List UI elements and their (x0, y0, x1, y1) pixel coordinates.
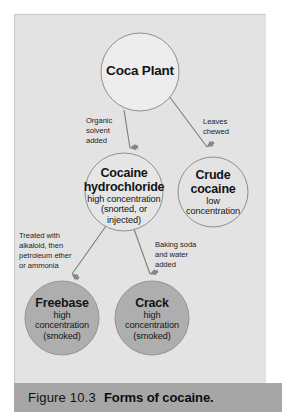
node-crack (115, 281, 189, 355)
figure-caption: Figure 10.3 Forms of cocaine. (14, 383, 282, 412)
node-coca-plant (101, 33, 179, 111)
caption-title: Forms of cocaine. (104, 390, 214, 405)
figure-container: Coca Plant Cocaine hydrochloride high co… (0, 0, 282, 418)
connector-plant-to-crude (169, 96, 207, 147)
connector-hydrochloride-to-crack (134, 229, 150, 274)
connector-plant-to-hydrochloride (124, 110, 130, 148)
caption-number: Figure 10.3 (28, 390, 96, 405)
diagram-graphics (0, 0, 282, 418)
node-crude-cocaine (178, 157, 248, 227)
node-freebase (25, 281, 99, 355)
connector-hydrochloride-to-freebase (72, 226, 106, 274)
node-cocaine-hydrochloride (85, 153, 163, 231)
